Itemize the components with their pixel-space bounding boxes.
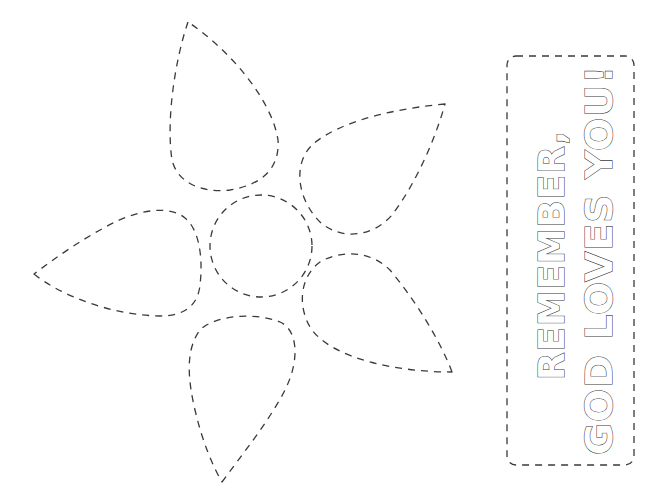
message-text-group: REMEMBER, GOD LOVES YOU!: [531, 65, 621, 455]
message-box: REMEMBER, GOD LOVES YOU!: [507, 56, 634, 465]
flower-cutout: [34, 22, 452, 482]
craft-template-canvas: REMEMBER, GOD LOVES YOU!: [0, 0, 662, 502]
flower-center-circle-icon: [210, 195, 312, 297]
message-line-1: REMEMBER,: [531, 130, 572, 380]
petal-left-teardrop-icon: [34, 210, 201, 316]
petal-top-teardrop-icon: [170, 22, 278, 191]
petal-bottom-teardrop-icon: [189, 316, 295, 482]
petal-lower-right-teardrop-icon: [302, 254, 452, 372]
message-line-2: GOD LOVES YOU!: [577, 65, 621, 455]
petal-upper-right-teardrop-icon: [300, 104, 445, 234]
